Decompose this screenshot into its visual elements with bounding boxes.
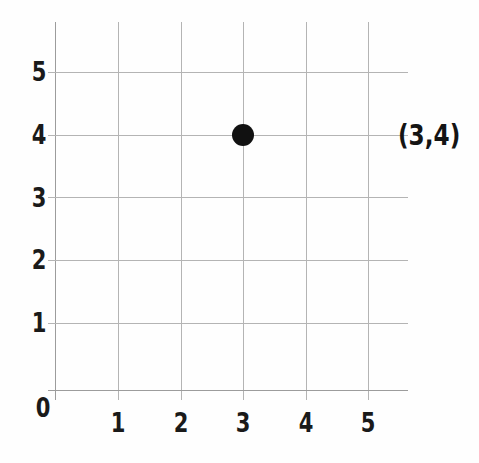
y-tick-label-4: 4	[21, 121, 46, 148]
point-coordinate-label: (3,4)	[398, 121, 460, 150]
y-tick-label-5: 5	[21, 58, 46, 85]
gridline-horizontal-y1	[48, 323, 408, 324]
x-tick-label-5: 5	[356, 409, 381, 436]
x-tick-label-2: 2	[169, 409, 194, 436]
gridline-vertical-x4	[306, 22, 307, 400]
gridline-horizontal-y3	[48, 197, 408, 198]
x-axis-line	[48, 390, 408, 391]
coordinate-grid-chart: 5 4 3 2 1 0 1 2 3 4 5 (3,4)	[0, 0, 479, 463]
gridline-vertical-x1	[118, 22, 119, 400]
gridline-horizontal-y4	[48, 135, 408, 136]
y-tick-label-2: 2	[21, 246, 46, 273]
origin-tick-label-0: 0	[31, 394, 56, 421]
gridline-vertical-x2	[181, 22, 182, 400]
gridline-horizontal-y2	[48, 260, 408, 261]
x-tick-label-3: 3	[231, 409, 256, 436]
x-tick-label-1: 1	[106, 409, 131, 436]
plotted-point-marker[interactable]	[232, 124, 254, 146]
y-axis-line	[55, 22, 56, 400]
y-tick-label-3: 3	[21, 184, 46, 211]
y-tick-label-1: 1	[21, 309, 46, 336]
gridline-horizontal-y5	[48, 72, 408, 73]
gridline-vertical-x5	[368, 22, 369, 400]
gridline-vertical-x3	[243, 22, 244, 400]
x-tick-label-4: 4	[294, 409, 319, 436]
